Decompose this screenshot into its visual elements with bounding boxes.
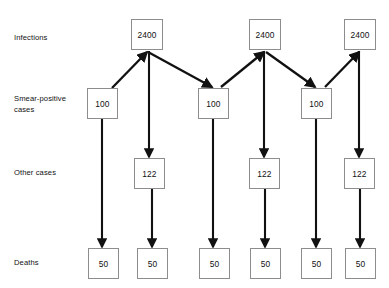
node-box-deaths-3: 50	[199, 248, 230, 279]
flow-arrow	[112, 52, 147, 88]
diagram-canvas: InfectionsSmear-positive casesOther case…	[0, 0, 389, 288]
node-box-deaths-5: 50	[301, 248, 332, 279]
node-box-smear-3: 100	[301, 88, 332, 119]
node-box-infections-1: 2400	[131, 19, 163, 50]
node-box-smear-1: 100	[87, 88, 118, 119]
flow-arrow	[221, 52, 264, 87]
node-box-other-3: 122	[344, 158, 375, 189]
edge-group	[102, 51, 360, 247]
node-box-deaths-4: 50	[250, 248, 281, 279]
node-box-deaths-2: 50	[137, 248, 168, 279]
flow-arrow	[266, 52, 315, 87]
node-box-smear-2: 100	[198, 88, 229, 119]
diagram-edges-layer	[0, 0, 389, 288]
flow-arrow	[325, 52, 359, 87]
node-box-other-1: 122	[134, 158, 165, 189]
node-box-deaths-6: 50	[345, 248, 376, 279]
row-label-infections: Infections	[14, 33, 48, 44]
row-label-deaths: Deaths	[14, 258, 39, 269]
node-box-other-2: 122	[249, 158, 280, 189]
row-label-other-cases: Other cases	[14, 168, 56, 179]
flow-arrow	[148, 52, 212, 87]
node-box-infections-2: 2400	[249, 19, 281, 50]
node-box-deaths-1: 50	[88, 248, 119, 279]
node-box-infections-3: 2400	[344, 19, 376, 50]
row-label-smear-positive-cases: Smear-positive cases	[14, 94, 66, 115]
